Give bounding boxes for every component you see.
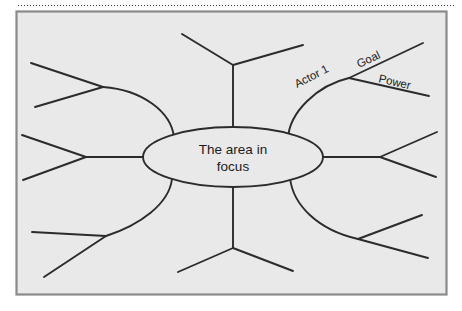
center-node-label-line-1: The area in [199,142,267,157]
center-node-label-line-2: focus [217,159,250,174]
center-node-ellipse [143,127,323,187]
mind-map-canvas: The area in focus Actor 1 Goal Power [0,0,462,311]
mind-map-figure: The area in focus Actor 1 Goal Power [0,0,462,311]
